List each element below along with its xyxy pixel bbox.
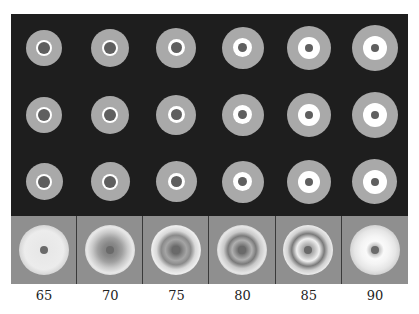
- center-dot: [104, 109, 116, 121]
- gray-disc: [156, 161, 197, 202]
- center-dot: [40, 246, 48, 254]
- profile-cell: [210, 216, 276, 284]
- gray-disc: [26, 97, 62, 133]
- center-dot: [304, 246, 312, 254]
- disc-cell: [143, 81, 209, 148]
- center-dot: [371, 178, 379, 186]
- disc-cell: [342, 14, 408, 81]
- white-ring: [102, 174, 118, 190]
- center-dot: [305, 111, 313, 119]
- white-ring: [363, 36, 387, 60]
- radial-profile: [283, 225, 333, 275]
- center-dot: [305, 44, 313, 52]
- white-ring: [168, 106, 185, 123]
- gray-disc: [91, 162, 130, 201]
- column-label: 65: [11, 288, 77, 303]
- center-dot: [171, 42, 182, 53]
- disc-cell: [143, 14, 209, 81]
- white-ring: [233, 105, 252, 124]
- gray-disc: [26, 30, 62, 66]
- center-dot: [305, 178, 313, 186]
- disc-cell: [210, 14, 276, 81]
- column-label: 85: [276, 288, 342, 303]
- disc-cell: [276, 14, 342, 81]
- white-ring: [363, 170, 387, 194]
- center-dot: [238, 110, 247, 119]
- disc-cell: [11, 14, 77, 81]
- gray-disc: [156, 95, 196, 135]
- radial-profile: [217, 225, 267, 275]
- gray-disc: [91, 29, 129, 67]
- white-ring: [233, 38, 252, 57]
- profile-cell: [143, 216, 209, 284]
- radial-profile: [350, 225, 400, 275]
- disc-cell: [342, 81, 408, 148]
- figure-panel: [11, 14, 408, 284]
- white-ring: [233, 172, 252, 191]
- gray-disc: [26, 163, 63, 200]
- center-dot: [371, 44, 379, 52]
- disc-cell: [143, 148, 209, 215]
- white-ring: [36, 174, 52, 190]
- center-dot: [371, 246, 379, 254]
- disc-grid: [11, 14, 408, 216]
- column-labels: 657075808590: [11, 288, 408, 304]
- gray-disc: [287, 160, 331, 204]
- center-dot: [104, 42, 116, 54]
- gray-disc: [287, 26, 331, 70]
- profile-cell: [342, 216, 408, 284]
- column-label: 80: [210, 288, 276, 303]
- white-ring: [102, 40, 118, 56]
- white-ring: [298, 37, 320, 59]
- center-dot: [238, 246, 246, 254]
- disc-cell: [11, 81, 77, 148]
- column-label: 75: [143, 288, 209, 303]
- center-dot: [171, 109, 182, 120]
- white-ring: [298, 171, 320, 193]
- disc-cell: [276, 81, 342, 148]
- center-dot: [38, 42, 50, 54]
- disc-cell: [210, 148, 276, 215]
- profile-cell: [77, 216, 143, 284]
- disc-cell: [77, 81, 143, 148]
- gray-disc: [287, 93, 331, 137]
- center-dot: [371, 111, 379, 119]
- center-dot: [171, 176, 182, 187]
- center-dot: [172, 246, 180, 254]
- gray-disc: [222, 161, 264, 203]
- center-dot: [238, 43, 247, 52]
- white-ring: [36, 40, 52, 56]
- white-ring: [298, 104, 320, 126]
- column-label: 90: [342, 288, 408, 303]
- center-dot: [38, 176, 50, 188]
- disc-cell: [77, 14, 143, 81]
- gray-disc: [352, 92, 398, 138]
- disc-cell: [210, 81, 276, 148]
- column-label: 70: [77, 288, 143, 303]
- white-ring: [168, 39, 185, 56]
- radial-profile: [85, 225, 135, 275]
- disc-cell: [11, 148, 77, 215]
- profile-cell: [11, 216, 77, 284]
- center-dot: [38, 109, 50, 121]
- disc-cell: [276, 148, 342, 215]
- center-dot: [238, 177, 247, 186]
- gray-disc: [222, 27, 264, 69]
- center-dot: [106, 246, 114, 254]
- white-ring: [363, 103, 387, 127]
- disc-cell: [77, 148, 143, 215]
- center-dot: [104, 176, 116, 188]
- disc-cell: [342, 148, 408, 215]
- profile-row: [11, 216, 408, 284]
- gray-disc: [352, 25, 398, 71]
- radial-profile: [19, 225, 69, 275]
- gray-disc: [156, 28, 196, 68]
- gray-disc: [352, 159, 397, 204]
- gray-disc: [222, 94, 264, 136]
- white-ring: [36, 107, 52, 123]
- profile-cell: [276, 216, 342, 284]
- white-ring: [102, 107, 118, 123]
- radial-profile: [151, 225, 201, 275]
- gray-disc: [91, 96, 129, 134]
- white-ring: [168, 173, 185, 190]
